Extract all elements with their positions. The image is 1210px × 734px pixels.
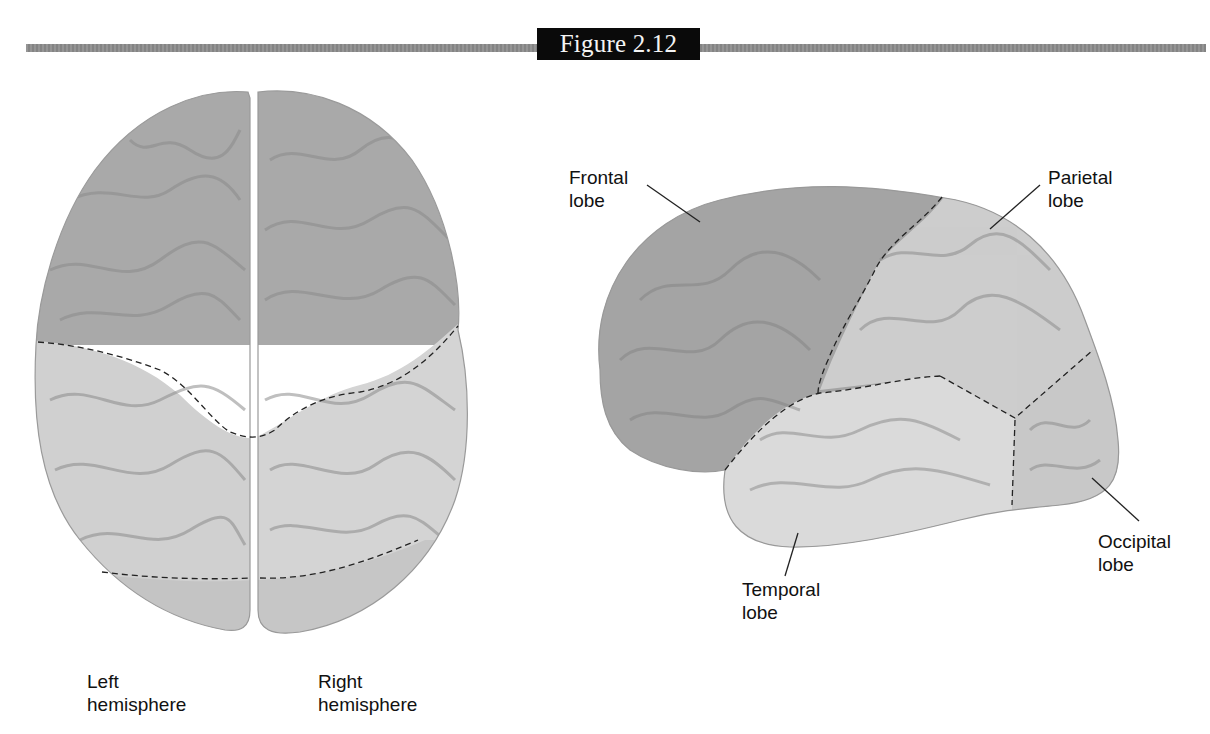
- occipital-label-line2: lobe: [1098, 553, 1171, 576]
- left-hemisphere-label: Left hemisphere: [87, 670, 186, 716]
- frontal-lobe-label: Frontal lobe: [569, 166, 628, 212]
- occipital-label-line1: Occipital: [1098, 530, 1171, 553]
- right-hemisphere-label: Right hemisphere: [318, 670, 417, 716]
- left-hemisphere-line2: hemisphere: [87, 693, 186, 716]
- top-view-left-hemisphere: [30, 85, 255, 640]
- frontal-leader-line: [647, 185, 700, 222]
- brain-illustrations: [0, 0, 1210, 734]
- parietal-label-line2: lobe: [1048, 189, 1112, 212]
- top-view-right-hemisphere: [255, 85, 470, 640]
- occipital-leader-line: [1092, 478, 1139, 521]
- parietal-lobe-label: Parietal lobe: [1048, 166, 1112, 212]
- frontal-label-line1: Frontal: [569, 166, 628, 189]
- temporal-label-line1: Temporal: [742, 578, 820, 601]
- right-hemisphere-line1: Right: [318, 670, 417, 693]
- occipital-lobe-label: Occipital lobe: [1098, 530, 1171, 576]
- left-hemisphere-line1: Left: [87, 670, 186, 693]
- right-hemisphere-line2: hemisphere: [318, 693, 417, 716]
- temporal-label-line2: lobe: [742, 601, 820, 624]
- parietal-label-line1: Parietal: [1048, 166, 1112, 189]
- frontal-label-line2: lobe: [569, 189, 628, 212]
- parietal-leader-line: [990, 185, 1040, 229]
- side-view-brain: [595, 180, 1130, 560]
- temporal-lobe-label: Temporal lobe: [742, 578, 820, 624]
